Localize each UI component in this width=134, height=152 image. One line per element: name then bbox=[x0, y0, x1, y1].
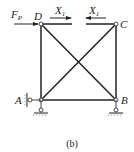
truss-diagram: FP X1 X1 D C A B (b) bbox=[0, 0, 134, 152]
node-a-label: A bbox=[14, 94, 22, 106]
load-arrows bbox=[14, 18, 106, 24]
node-b-label: B bbox=[121, 94, 128, 106]
x1-left-label: X1 bbox=[54, 4, 65, 18]
x1-right-label: X1 bbox=[88, 4, 99, 18]
node-d-label: D bbox=[33, 10, 42, 22]
node-c-label: C bbox=[120, 18, 128, 30]
truss-members bbox=[41, 24, 116, 100]
figure-caption: (b) bbox=[66, 138, 78, 150]
fp-label: FP bbox=[10, 8, 23, 22]
